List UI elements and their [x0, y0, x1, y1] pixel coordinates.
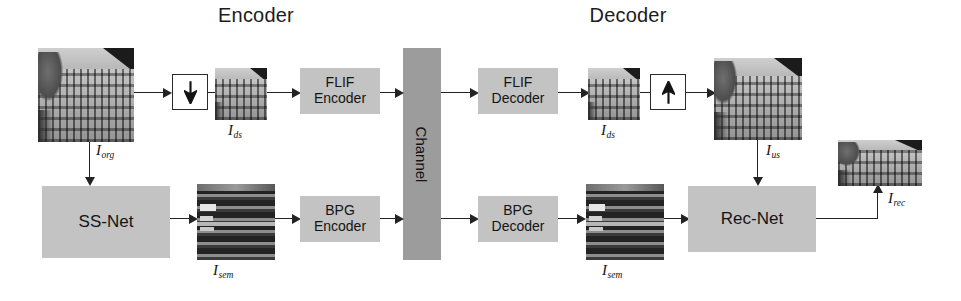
connector-flif-encoder-to-channel-head [395, 88, 404, 98]
connector-org-to-downsample-line [134, 92, 164, 93]
connector-isem-to-recnet-line [664, 218, 682, 219]
label-i-sem-encoder-subscript: sem [219, 270, 234, 280]
photo-shadow [714, 112, 728, 140]
label-i-us-subscript: us [772, 150, 780, 160]
downsampled-image-decoder [588, 68, 640, 120]
photo-shadow [838, 170, 851, 186]
label-i-rec-subscript: rec [894, 198, 906, 208]
connector-channel-to-bpg-decoder-line [441, 218, 471, 219]
photo-tree [838, 142, 860, 166]
bpg-encoder-block-label: BPGEncoder [314, 203, 366, 234]
flif-decoder-block-label-line2: Decoder [492, 91, 545, 107]
flif-decoder-block-label-line1: FLIF [492, 75, 545, 91]
downsample-arrow [184, 81, 197, 104]
channel-block[interactable]: Channel [403, 48, 441, 260]
flif-decoder-block[interactable]: FLIFDecoder [478, 68, 558, 114]
label-i-sem-encoder: Isem [213, 262, 233, 279]
label-i-org-subscript: org [102, 150, 115, 160]
connector-bpg-encoder-to-channel-line [380, 218, 396, 219]
ss-net-block-label: SS-Net [79, 212, 134, 231]
label-i-ds-encoder-symbol: I [228, 122, 233, 138]
reconstructed-image [838, 140, 922, 186]
photo-shadow [38, 110, 53, 142]
bpg-decoder-block-label-line1: BPG [492, 203, 545, 219]
label-i-org-symbol: I [96, 142, 101, 158]
semantic-topstrip [586, 184, 664, 191]
connector-ius-to-recnet-head [753, 177, 763, 186]
connector-org-to-downsample-head [163, 88, 172, 98]
semantic-chipa [200, 204, 216, 211]
connector-org-to-ssnet-line [89, 142, 90, 178]
label-i-us-symbol: I [766, 142, 771, 158]
label-i-sem-decoder-symbol: I [602, 262, 607, 278]
semantic-chipc [200, 227, 214, 232]
rec-net-block[interactable]: Rec-Net [688, 186, 816, 252]
photo-shadow [215, 102, 223, 120]
label-i-us: Ius [766, 142, 779, 159]
original-image [38, 48, 134, 142]
connector-bpg-decoder-to-isem-line [558, 218, 578, 219]
bpg-encoder-block-label-line2: Encoder [314, 219, 366, 235]
semantic-chipc [589, 227, 603, 232]
connector-upsample-to-ius-line [686, 92, 708, 93]
connector-channel-to-flif-decoder-line [441, 92, 471, 93]
label-i-ds-decoder-subscript: ds [607, 130, 615, 140]
encoder-section-title: Encoder [218, 4, 294, 27]
architecture-diagram: EncoderDecoderChannelIdsFLIFEncoderFLIFD… [0, 0, 961, 301]
semantic-bandlight [586, 222, 664, 226]
downsampled-image-encoder [215, 68, 267, 120]
connector-recnet-out-horizontal [816, 218, 878, 219]
flif-decoder-block-label: FLIFDecoder [492, 75, 545, 106]
bpg-decoder-block[interactable]: BPGDecoder [478, 196, 558, 242]
upsample-operator-box[interactable] [650, 74, 686, 110]
upsample-arrow [662, 81, 675, 104]
label-i-org: Iorg [96, 142, 114, 159]
rec-net-block-label: Rec-Net [721, 209, 783, 228]
label-i-rec: Irec [888, 190, 905, 207]
downsample-operator-box[interactable] [172, 74, 208, 110]
bpg-decoder-block-label: BPGDecoder [492, 203, 545, 234]
rec-net-block-label-line1: Rec-Net [721, 209, 783, 228]
connector-org-to-ssnet-head [85, 177, 95, 186]
connector-flif-encoder-to-channel-line [380, 92, 396, 93]
photo-tree [38, 52, 63, 101]
flif-encoder-block-label-line2: Encoder [314, 91, 366, 107]
bpg-decoder-block-label-line2: Decoder [492, 219, 545, 235]
label-i-ds-encoder-subscript: ds [234, 130, 242, 140]
label-i-sem-encoder-symbol: I [213, 262, 218, 278]
connector-ids-to-flif-encoder-line [267, 92, 293, 93]
connector-bpg-decoder-to-isem-head [577, 214, 586, 224]
flif-encoder-block-label-line1: FLIF [314, 75, 366, 91]
semantic-map-encoder [197, 184, 275, 260]
connector-recnet-out-vertical [877, 192, 878, 219]
bpg-encoder-block[interactable]: BPGEncoder [300, 196, 380, 242]
connector-isem-to-bpg-encoder-line [275, 218, 293, 219]
label-i-ds-decoder: Ids [601, 122, 614, 139]
connector-ssnet-to-isem-line [170, 218, 190, 219]
label-i-sem-decoder: Isem [602, 262, 622, 279]
photo-shadow [588, 102, 596, 120]
semantic-chipb [200, 216, 212, 221]
flif-encoder-block-label: FLIFEncoder [314, 75, 366, 106]
ss-net-block[interactable]: SS-Net [42, 186, 170, 258]
semantic-topstrip [197, 184, 275, 191]
bpg-encoder-block-label-line1: BPG [314, 203, 366, 219]
label-i-sem-decoder-subscript: sem [608, 270, 623, 280]
channel-label: Channel [414, 126, 431, 182]
semantic-chipa [589, 204, 605, 211]
decoder-section-title: Decoder [590, 4, 667, 27]
connector-flif-decoder-to-ids-line [558, 92, 582, 93]
photo-tree [714, 61, 737, 104]
ss-net-block-label-line1: SS-Net [79, 212, 134, 231]
connector-ius-to-recnet-line [757, 140, 758, 178]
label-i-ds-encoder: Ids [228, 122, 241, 139]
semantic-chipb [589, 216, 601, 221]
label-i-ds-decoder-symbol: I [601, 122, 606, 138]
flif-encoder-block[interactable]: FLIFEncoder [300, 68, 380, 114]
upsampled-image [714, 58, 802, 140]
connector-bpg-encoder-to-channel-head [395, 214, 404, 224]
label-i-rec-symbol: I [888, 190, 893, 206]
semantic-map-decoder [586, 184, 664, 260]
semantic-bandlight [197, 222, 275, 226]
